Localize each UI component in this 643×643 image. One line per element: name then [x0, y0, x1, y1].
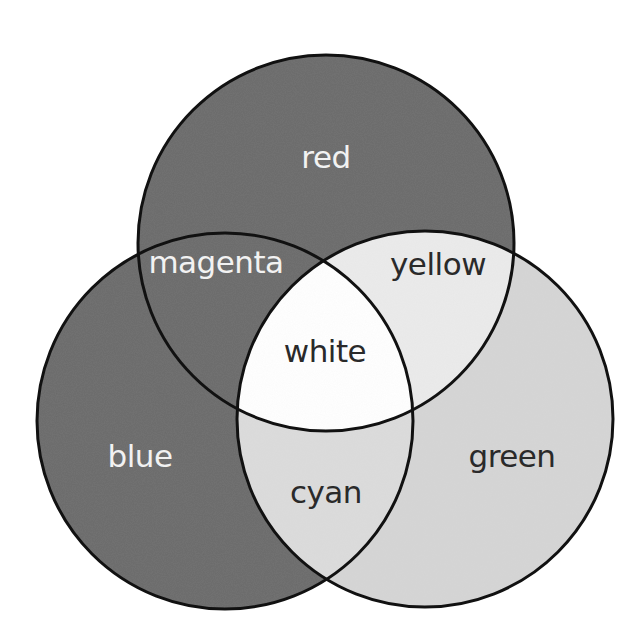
label-cyan: cyan — [290, 474, 362, 510]
label-green: green — [468, 438, 555, 474]
label-red: red — [301, 139, 350, 175]
label-magenta: magenta — [148, 244, 283, 280]
label-white: white — [284, 333, 366, 369]
label-blue: blue — [107, 438, 172, 474]
label-yellow: yellow — [390, 246, 486, 282]
venn-diagram: red magenta yellow white blue green cyan — [0, 0, 643, 643]
